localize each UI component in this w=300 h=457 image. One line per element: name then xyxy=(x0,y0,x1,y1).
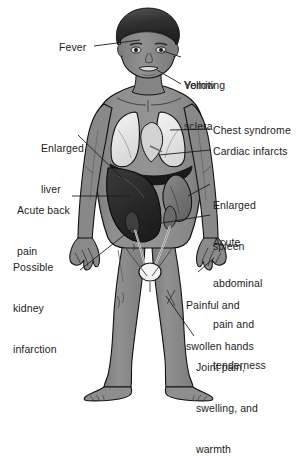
label-line: Possible xyxy=(13,261,57,275)
label-yellow-sclera: Yellow sclera xyxy=(184,52,215,147)
label-line: Acute xyxy=(213,236,266,250)
label-fever: Fever xyxy=(59,41,86,55)
label-line: sclera xyxy=(184,120,215,134)
label-cardiac-infarcts: Cardiac infarcts xyxy=(213,145,288,159)
label-line: swelling, and xyxy=(196,402,258,416)
label-line: Enlarged xyxy=(41,142,84,156)
left-leg xyxy=(104,242,145,387)
label-line: Joint pain, xyxy=(196,361,258,375)
label-line: Acute back xyxy=(17,204,70,218)
label-chest-syndrome: Chest syndrome xyxy=(213,124,291,138)
left-foot xyxy=(84,387,132,401)
label-vomiting: Vomiting xyxy=(184,79,225,93)
label-line: warmth xyxy=(196,443,258,457)
bladder xyxy=(139,263,161,281)
left-hand xyxy=(70,238,100,270)
label-line: infarction xyxy=(13,343,57,357)
mouth xyxy=(139,67,158,72)
label-joint-pain: Joint pain, swelling, and warmth xyxy=(196,334,258,457)
label-line: Painful and xyxy=(186,299,254,313)
label-line: kidney xyxy=(13,302,57,316)
label-kidney-infarction: Possible kidney infarction xyxy=(13,234,57,370)
